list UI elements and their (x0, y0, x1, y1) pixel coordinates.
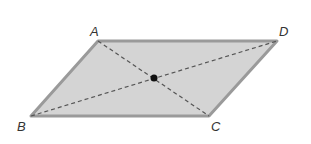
parallelogram-diagram: A D C B (0, 0, 311, 144)
vertex-label-a: A (89, 24, 99, 39)
vertex-label-b: B (17, 119, 26, 134)
vertex-label-d: D (279, 24, 288, 39)
intersection-point (151, 75, 158, 82)
vertex-label-c: C (211, 119, 221, 134)
